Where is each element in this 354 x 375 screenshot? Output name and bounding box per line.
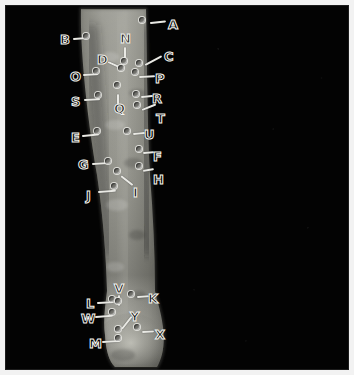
marker-dot-f[interactable] [136, 146, 142, 152]
annotation-overlay: ABCDEFGHIJKLMNOPQRSTUVWXY [5, 5, 349, 370]
marker-dot-b[interactable] [83, 33, 89, 39]
marker-dot-t[interactable] [134, 102, 140, 108]
annotation-label-v: V [114, 282, 124, 295]
marker-dot-i[interactable] [114, 168, 120, 174]
marker-dot-o[interactable] [93, 68, 99, 74]
marker-dot-m[interactable] [115, 335, 121, 341]
marker-dot-x[interactable] [134, 324, 140, 330]
annotation-label-l: L [86, 297, 94, 310]
annotation-label-m: M [89, 337, 102, 350]
screenshot-root: ABCDEFGHIJKLMNOPQRSTUVWXY [0, 0, 354, 375]
leader-line-c [145, 55, 163, 66]
marker-dot-k[interactable] [128, 291, 134, 297]
marker-dot-s[interactable] [95, 92, 101, 98]
marker-dot-a[interactable] [139, 17, 145, 23]
annotation-label-k: K [148, 292, 158, 305]
leader-line-a [150, 20, 166, 24]
marker-dot-j[interactable] [111, 183, 117, 189]
annotation-label-f: F [153, 150, 162, 163]
annotation-label-p: P [155, 72, 165, 85]
annotation-label-g: G [78, 158, 89, 171]
marker-dot-n[interactable] [121, 58, 127, 64]
leader-line-w [95, 315, 113, 318]
marker-dot-c[interactable] [136, 60, 142, 66]
marker-dot-v[interactable] [115, 298, 121, 304]
annotation-label-d: D [97, 53, 108, 66]
annotation-label-x: X [155, 328, 165, 341]
leader-line-s [84, 98, 100, 101]
annotation-label-q: Q [114, 102, 125, 115]
marker-dot-d[interactable] [118, 65, 124, 71]
annotation-label-o: O [70, 70, 81, 83]
marker-dot-y[interactable] [115, 326, 121, 332]
leader-line-e [82, 134, 99, 137]
marker-dot-r[interactable] [133, 91, 139, 97]
marker-dot-q[interactable] [114, 82, 120, 88]
annotation-label-t: T [156, 112, 165, 125]
marker-dot-h[interactable] [136, 163, 142, 169]
marker-dot-w[interactable] [109, 309, 115, 315]
leader-line-i [120, 175, 133, 186]
annotation-label-y: Y [130, 310, 139, 323]
leader-line-j [98, 190, 116, 193]
annotation-label-s: S [71, 95, 80, 108]
annotation-label-c: C [164, 50, 174, 63]
leader-line-x [142, 330, 154, 333]
annotation-label-w: W [81, 312, 95, 325]
marker-dot-u[interactable] [124, 128, 130, 134]
annotation-label-n: N [120, 32, 131, 45]
marker-dot-g[interactable] [105, 158, 111, 164]
image-plate: ABCDEFGHIJKLMNOPQRSTUVWXY [5, 5, 349, 370]
annotation-label-b: B [60, 33, 70, 46]
annotation-label-i: I [133, 186, 138, 199]
leader-line-p [139, 75, 155, 78]
annotation-label-a: A [168, 18, 178, 31]
leader-line-t [142, 103, 157, 110]
annotation-label-u: U [144, 128, 155, 141]
annotation-label-j: J [86, 189, 91, 202]
annotation-label-e: E [71, 131, 80, 144]
marker-dot-p[interactable] [132, 69, 138, 75]
marker-dot-e[interactable] [94, 128, 100, 134]
annotation-label-h: H [153, 173, 164, 186]
